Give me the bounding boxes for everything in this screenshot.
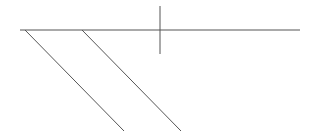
diagonal-right bbox=[82, 30, 181, 131]
diagonal-left bbox=[25, 30, 124, 131]
line-diagram bbox=[0, 0, 313, 140]
